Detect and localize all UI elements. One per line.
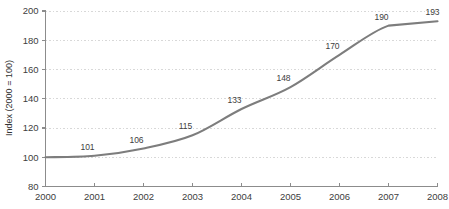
x-tick-label: 2008 xyxy=(427,191,448,202)
chart-canvas: 80100120140160180200 2000200120022003200… xyxy=(0,0,449,209)
y-tick-label: 120 xyxy=(23,122,39,133)
y-tick-labels: 80100120140160180200 xyxy=(23,5,39,192)
x-tick-label: 2006 xyxy=(329,191,350,202)
x-tick-marks xyxy=(46,183,438,187)
x-tick-label: 2007 xyxy=(378,191,399,202)
x-tick-label: 2002 xyxy=(133,191,154,202)
data-point-label: 115 xyxy=(179,121,193,131)
data-point-label: 190 xyxy=(374,12,388,22)
data-point-label: 133 xyxy=(227,95,241,105)
data-point-label: 148 xyxy=(276,73,290,83)
data-point-labels: 101106115133148170190193 xyxy=(80,7,439,152)
data-point-label: 106 xyxy=(129,135,143,145)
data-series-line xyxy=(46,21,438,157)
x-tick-label: 2001 xyxy=(84,191,105,202)
line-chart: 80100120140160180200 2000200120022003200… xyxy=(0,0,449,209)
y-tick-label: 140 xyxy=(23,93,39,104)
y-tick-label: 180 xyxy=(23,35,39,46)
data-point-label: 101 xyxy=(80,142,94,152)
x-tick-label: 2005 xyxy=(280,191,301,202)
y-tick-label: 200 xyxy=(23,5,39,16)
x-tick-labels: 200020012002200320042005200620072008 xyxy=(35,191,448,202)
y-tick-label: 160 xyxy=(23,64,39,75)
x-tick-label: 2003 xyxy=(182,191,203,202)
data-point-label: 193 xyxy=(425,7,439,17)
x-tick-label: 2004 xyxy=(231,191,252,202)
x-tick-label: 2000 xyxy=(35,191,56,202)
y-tick-marks xyxy=(42,11,46,187)
x-axis-group: 200020012002200320042005200620072008 xyxy=(35,183,448,202)
y-axis-title: Index (2000 = 100) xyxy=(4,60,14,136)
y-tick-label: 100 xyxy=(23,152,39,163)
y-axis-group: 80100120140160180200 xyxy=(23,5,46,192)
data-point-label: 170 xyxy=(325,41,339,51)
gridlines-group xyxy=(46,11,438,157)
